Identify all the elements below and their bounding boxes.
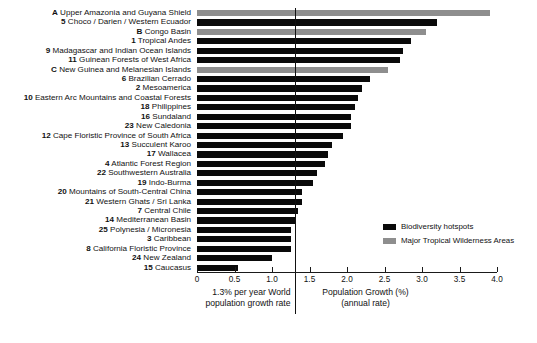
x-tick: [310, 267, 311, 272]
category-rank: 18: [141, 102, 150, 111]
reference-line-caption: 1.3% per year World population growth ra…: [0, 287, 291, 309]
category-rank: 17: [147, 149, 156, 158]
category-name: New Caledonia: [134, 121, 191, 130]
bar-hotspot: [197, 48, 403, 54]
bar-hotspot: [197, 208, 298, 214]
bar-hotspot: [197, 76, 370, 82]
bar-hotspot: [197, 85, 362, 91]
population-growth-bar-chart: A Upper Amazonia and Guyana Shield5 Choc…: [0, 0, 537, 343]
x-tick: [197, 267, 198, 272]
category-name: Guinean Forests of West Africa: [77, 55, 191, 64]
category-name: Polynesia / Micronesia: [108, 225, 191, 234]
x-tick: [235, 267, 236, 272]
bar-wilderness: [197, 10, 490, 16]
reference-caption-line-2: population growth rate: [0, 298, 291, 309]
category-rank: 25: [99, 225, 108, 234]
x-tick-label: 3.0: [416, 275, 427, 284]
category-name: Choco / Darien / Western Ecuador: [66, 17, 191, 26]
category-name: New Guinea and Melanesian Islands: [57, 65, 191, 74]
category-rank: 15: [144, 263, 153, 272]
x-tick-label: 4.0: [491, 275, 502, 284]
category-name: Congo Basin: [142, 27, 191, 36]
bar-hotspot: [197, 57, 400, 63]
bar-hotspot: [197, 246, 291, 252]
world-growth-reference-line: [295, 8, 296, 314]
category-rank: 12: [42, 131, 51, 140]
legend-label: Biodiversity hotspots: [401, 222, 473, 231]
category-name: Central Chile: [142, 206, 191, 215]
category-name: Caucasus: [153, 263, 191, 272]
x-axis-title-line-1: Population Growth (%): [301, 287, 431, 298]
legend-item: Major Tropical Wilderness Areas: [383, 236, 514, 245]
category-name: Sundaland: [150, 112, 191, 121]
legend-swatch-wilderness: [383, 238, 396, 244]
chart-legend: Biodiversity hotspotsMajor Tropical Wild…: [383, 222, 514, 250]
category-name: Succulent Karoo: [129, 140, 191, 149]
category-name: Tropical Andes: [136, 36, 191, 45]
bar-hotspot: [197, 142, 332, 148]
category-name: Wallacea: [156, 149, 191, 158]
category-name: Atlantic Forest Region: [110, 159, 191, 168]
category-rank: 16: [141, 112, 150, 121]
x-tick-label: 2.5: [379, 275, 390, 284]
category-name: Western Ghats / Sri Lanka: [94, 197, 191, 206]
bar-hotspot: [197, 123, 351, 129]
bar-hotspot: [197, 199, 302, 205]
bar-hotspot: [197, 151, 328, 157]
bar-hotspot: [197, 217, 295, 223]
category-name: Caribbean: [151, 234, 191, 243]
x-tick-label: 2.0: [341, 275, 352, 284]
bar-hotspot: [197, 114, 351, 120]
bar-hotspot: [197, 133, 343, 139]
bar-hotspot: [197, 227, 291, 233]
x-tick: [497, 267, 498, 272]
legend-item: Biodiversity hotspots: [383, 222, 514, 231]
bar-hotspot: [197, 170, 317, 176]
category-name: New Zealand: [141, 253, 191, 262]
category-name: Southwestern Australia: [106, 168, 191, 177]
category-name: Mountains of South-Central China: [67, 187, 191, 196]
category-rank: 13: [120, 140, 129, 149]
x-tick: [272, 267, 273, 272]
bar-hotspot: [197, 189, 302, 195]
category-rank: 20: [58, 187, 67, 196]
x-tick-label: 1.5: [304, 275, 315, 284]
x-tick: [460, 267, 461, 272]
category-name: California Floristic Province: [91, 244, 191, 253]
bar-hotspot: [197, 255, 272, 261]
bar-hotspot: [197, 180, 313, 186]
category-axis-labels: A Upper Amazonia and Guyana Shield5 Choc…: [0, 8, 195, 272]
bar-hotspot: [197, 38, 411, 44]
category-label: 15 Caucasus: [144, 263, 191, 274]
bar-hotspot: [197, 104, 355, 110]
category-name: Madagascar and Indian Ocean Islands: [50, 46, 191, 55]
legend-label: Major Tropical Wilderness Areas: [401, 236, 514, 245]
category-rank: 11: [68, 55, 77, 64]
category-name: Mediterranean Basin: [114, 215, 191, 224]
category-name: Philippines: [150, 102, 191, 111]
category-name: Upper Amazonia and Guyana Shield: [58, 8, 191, 17]
x-axis-title: Population Growth (%) (annual rate): [301, 287, 431, 309]
category-rank: 23: [125, 121, 134, 130]
category-rank: 14: [105, 215, 114, 224]
category-rank: 21: [85, 197, 94, 206]
x-tick-label: 1.0: [266, 275, 277, 284]
category-rank: 22: [97, 168, 106, 177]
bar-wilderness: [197, 67, 388, 73]
x-axis-line: [197, 272, 497, 273]
bar-hotspot: [197, 236, 291, 242]
x-axis-title-line-2: (annual rate): [301, 298, 431, 309]
bar-hotspot: [197, 19, 437, 25]
bar-wilderness: [197, 29, 426, 35]
category-rank: 24: [132, 253, 141, 262]
bar-hotspot: [197, 265, 238, 271]
category-name: Mesoamerica: [140, 83, 191, 92]
x-tick: [385, 267, 386, 272]
category-name: Eastern Arc Mountains and Coastal Forest…: [33, 93, 191, 102]
category-name: Brazilian Cerrado: [126, 74, 191, 83]
x-tick-label: 0.5: [229, 275, 240, 284]
x-tick: [422, 267, 423, 272]
bar-hotspot: [197, 95, 358, 101]
category-rank: 10: [24, 93, 33, 102]
legend-swatch-hotspot: [383, 224, 396, 230]
